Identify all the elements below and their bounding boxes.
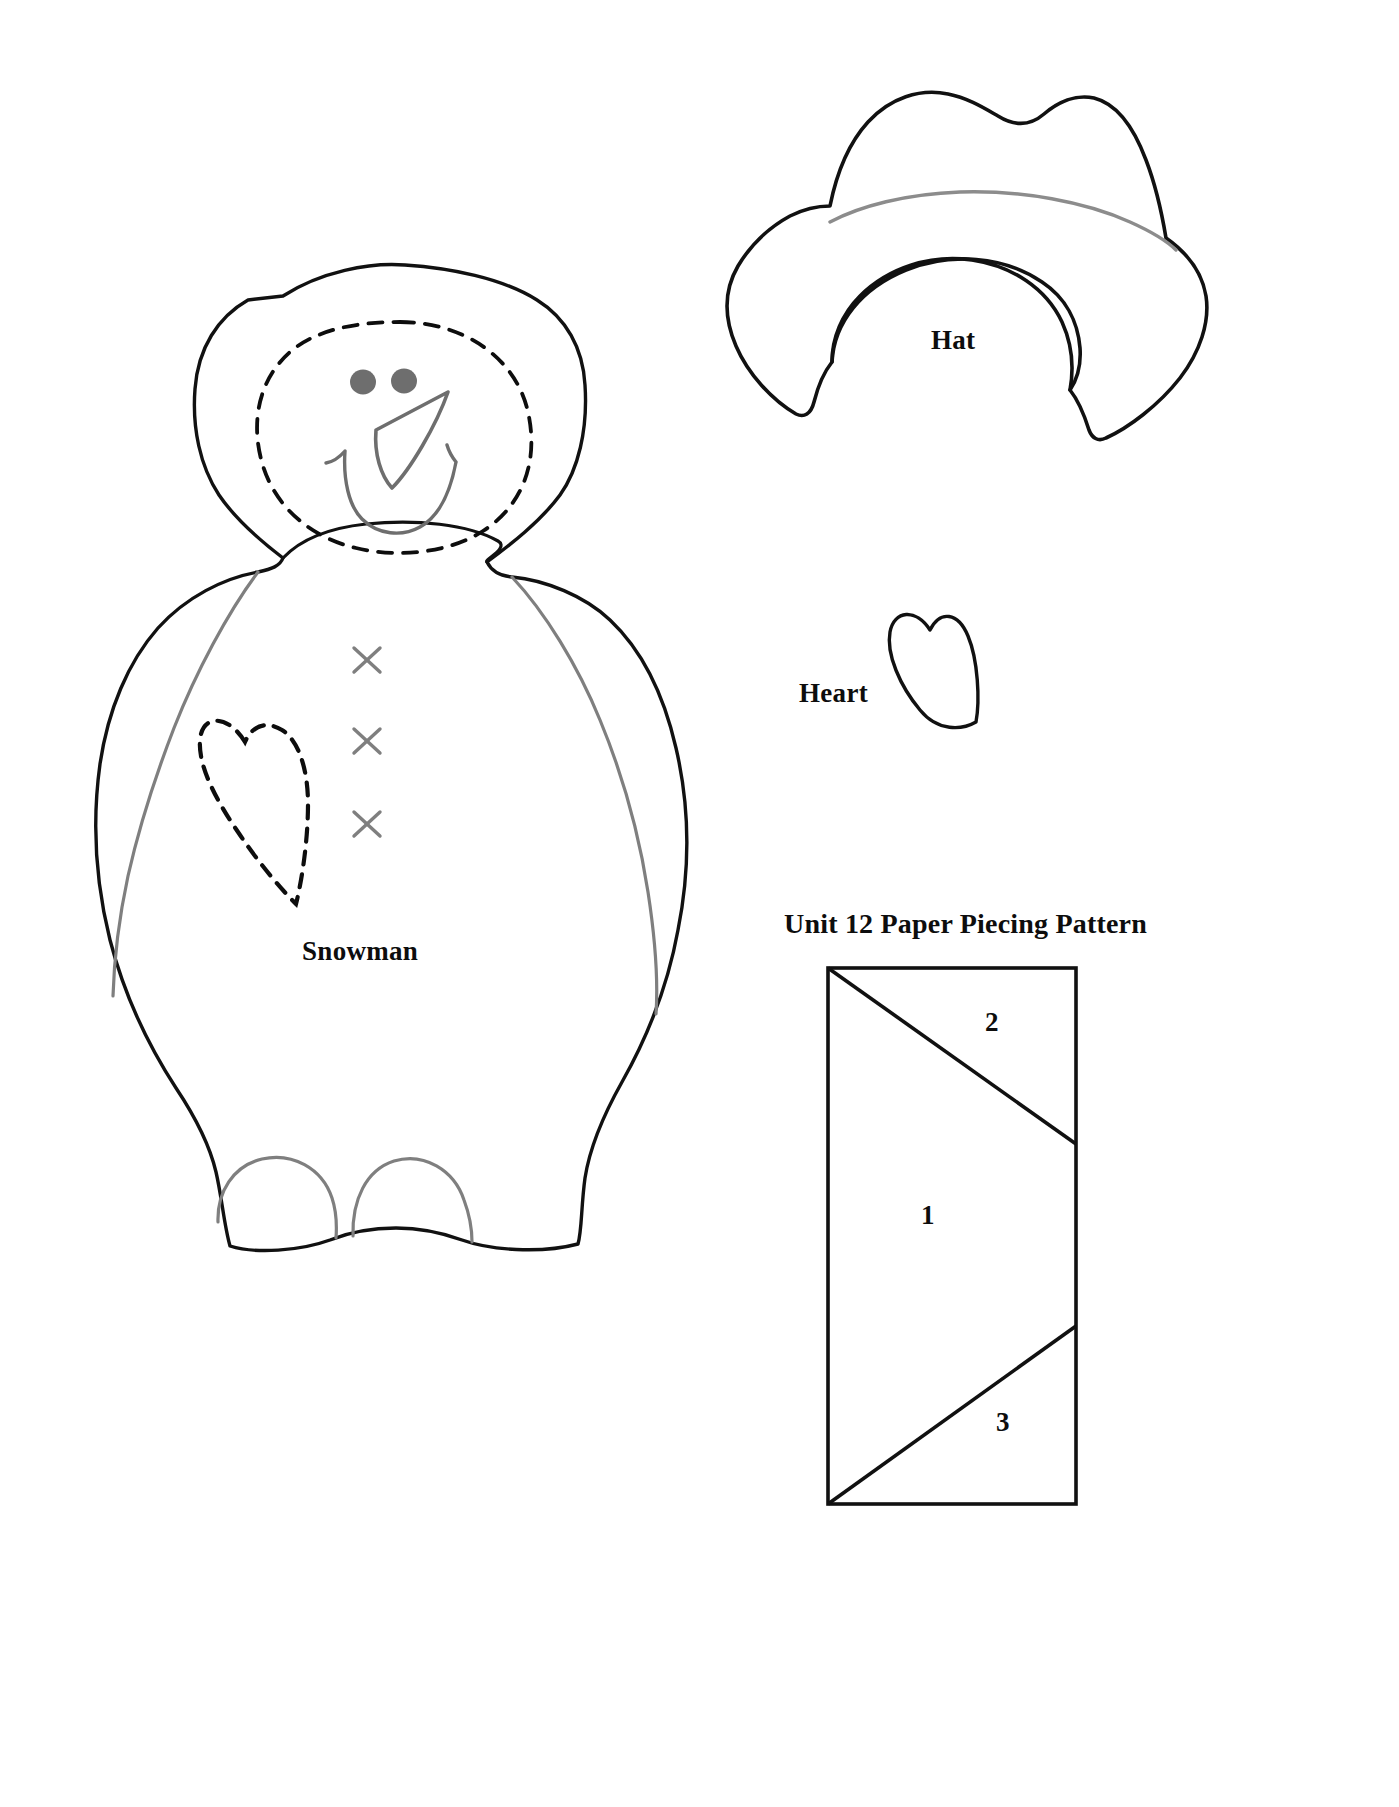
snowman-cross-stitch-3 xyxy=(354,812,380,836)
snowman-cross-stitch-2 xyxy=(354,729,380,753)
snowman-cross-stitch-1 xyxy=(354,648,380,672)
unit-piecing-region-1-number: 1 xyxy=(921,1200,935,1231)
snowman-chest-heart-dashed xyxy=(200,721,308,904)
snowman-left-eye xyxy=(350,370,376,395)
unit-piecing-diagram xyxy=(828,968,1076,1504)
hat-piece xyxy=(727,92,1207,439)
pattern-page: Snowman Hat Heart Unit 12 Paper Piecing … xyxy=(0,0,1399,1807)
unit-piecing-title: Unit 12 Paper Piecing Pattern xyxy=(784,908,1147,940)
snowman-carrot-nose xyxy=(376,392,448,488)
heart-outline xyxy=(889,614,978,727)
snowman-piece xyxy=(96,264,687,1250)
snowman-face-dashed-oval xyxy=(257,322,531,553)
hat-label: Hat xyxy=(931,325,975,356)
unit-piecing-divider-bottom xyxy=(828,1326,1076,1504)
snowman-right-body-contour xyxy=(512,577,657,1014)
unit-piecing-region-3-number: 3 xyxy=(996,1407,1010,1438)
hat-outline xyxy=(727,92,1207,439)
snowman-right-eye xyxy=(391,369,417,394)
snowman-hat-brim-line xyxy=(283,522,501,562)
heart-label: Heart xyxy=(799,678,868,709)
snowman-label: Snowman xyxy=(302,936,418,967)
pattern-drawing xyxy=(0,0,1399,1807)
snowman-left-foot xyxy=(218,1157,336,1238)
snowman-left-body-contour xyxy=(113,572,258,996)
heart-piece xyxy=(889,614,978,727)
unit-piecing-rectangle xyxy=(828,968,1076,1504)
hat-band-line xyxy=(830,192,1176,250)
unit-piecing-region-2-number: 2 xyxy=(985,1007,999,1038)
unit-piecing-divider-top xyxy=(828,968,1076,1144)
snowman-outline xyxy=(96,264,687,1250)
